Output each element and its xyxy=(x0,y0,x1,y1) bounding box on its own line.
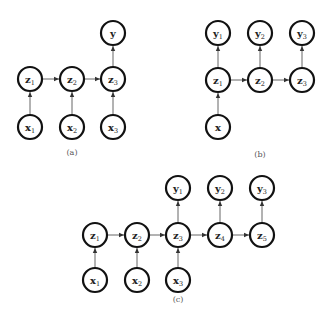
node-z4: z4 xyxy=(208,223,232,247)
node-x2: x2 xyxy=(125,268,149,292)
node-z2: z2 xyxy=(125,223,149,247)
node-y3: y3 xyxy=(250,176,274,200)
diagram-b: y1y2y3z1z2z3x(b) xyxy=(206,21,314,159)
node-label: x xyxy=(215,122,222,133)
caption-b: (b) xyxy=(254,150,265,159)
caption-a: (a) xyxy=(66,148,77,157)
node-z1: z1 xyxy=(206,68,230,92)
node-x1: x1 xyxy=(18,115,42,139)
node-z2: z2 xyxy=(248,68,272,92)
node-x2: x2 xyxy=(60,115,84,139)
node-x3: x3 xyxy=(101,115,125,139)
node-z1: z1 xyxy=(83,223,107,247)
node-z1: z1 xyxy=(18,67,42,91)
node-label: y xyxy=(109,28,117,39)
node-z5: z5 xyxy=(250,223,274,247)
node-y1: y1 xyxy=(206,21,230,45)
diagram-canvas: yz1z2z3x1x2x3(a) y1y2y3z1z2z3x(b) y1y2y3… xyxy=(0,0,330,327)
diagram-a: yz1z2z3x1x2x3(a) xyxy=(18,21,125,157)
node-z2: z2 xyxy=(60,67,84,91)
node-y3: y3 xyxy=(290,21,314,45)
node-x: x xyxy=(206,115,230,139)
node-y: y xyxy=(101,21,125,45)
caption-c: (c) xyxy=(173,295,184,304)
diagram-c: y1y2y3z1z2z3z4z5x1x2x3(c) xyxy=(83,176,274,304)
node-y2: y2 xyxy=(208,176,232,200)
node-z3: z3 xyxy=(290,68,314,92)
node-y1: y1 xyxy=(166,176,190,200)
node-x3: x3 xyxy=(166,268,190,292)
node-x1: x1 xyxy=(83,268,107,292)
node-y2: y2 xyxy=(248,21,272,45)
node-z3: z3 xyxy=(101,67,125,91)
node-z3: z3 xyxy=(166,223,190,247)
